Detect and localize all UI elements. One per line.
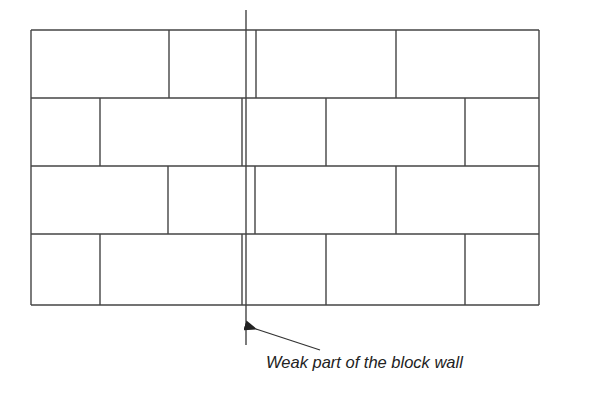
weak-part-label: Weak part of the block wall <box>266 353 463 372</box>
block-wall-diagram <box>0 0 611 402</box>
annotation-arrow-icon <box>256 329 320 350</box>
block-wall <box>31 30 539 305</box>
